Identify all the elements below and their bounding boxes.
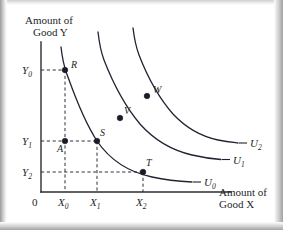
y-tick-label-Y1: Y1 (22, 135, 32, 150)
y-tick-label-Y0: Y0 (22, 64, 32, 79)
x-tick-label-X1: X1 (89, 196, 100, 211)
x-axis-label-line2: Good X (219, 198, 254, 210)
data-point-W (144, 93, 150, 99)
figure-page: Amount of Good Y U0 U1 U2 (0, 0, 283, 230)
x-tick-X1-sub: 1 (97, 202, 101, 211)
origin-label: 0 (32, 196, 38, 208)
indifference-curve-chart: Amount of Good Y U0 U1 U2 (0, 0, 283, 230)
x-tick-X2-sub: 2 (143, 202, 147, 211)
x-tick-X0-sub: 0 (65, 202, 69, 211)
x-axis-label-line1: Amount of (219, 186, 267, 198)
point-label-R: R (70, 59, 77, 70)
data-point-R (62, 67, 68, 73)
y-tick-Y0-sub: 0 (28, 70, 32, 79)
curve-label-U1: U1 (233, 154, 245, 169)
point-label-V: V (124, 105, 132, 116)
curve-label-U2: U2 (250, 137, 262, 152)
y-tick-Y1-sub: 1 (28, 141, 32, 150)
curve-label-U0-sub: 0 (212, 182, 216, 191)
point-label-S: S (100, 127, 105, 138)
point-label-T: T (146, 157, 153, 168)
point-label-W: W (153, 84, 163, 95)
y-tick-Y2-sub: 2 (28, 172, 32, 181)
data-point-T (140, 169, 146, 175)
y-axis-label-line1: Amount of (25, 14, 73, 26)
curve-label-U1-sub: 1 (241, 160, 245, 169)
x-tick-label-X0: X0 (57, 196, 69, 211)
curve-label-U0: U0 (204, 176, 216, 191)
x-tick-label-X2: X2 (135, 196, 147, 211)
y-tick-label-Y2: Y2 (22, 166, 32, 181)
curve-U2 (133, 28, 238, 143)
y-axis-label-line2: Good Y (33, 26, 68, 38)
data-point-V (117, 115, 123, 121)
point-label-A: A (56, 143, 64, 154)
curve-label-U2-sub: 2 (258, 143, 262, 152)
data-point-S (94, 138, 100, 144)
